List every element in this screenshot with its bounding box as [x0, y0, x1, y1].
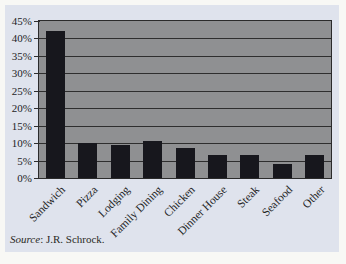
gridline: [39, 126, 331, 127]
y-tick-mark: [34, 21, 40, 22]
y-tick-mark: [34, 143, 40, 144]
y-tick-mark: [34, 91, 40, 92]
plot-area: [38, 20, 332, 179]
y-tick-mark: [34, 108, 40, 109]
bar-sandwich: [46, 31, 65, 178]
x-tick-label: Sandwich: [27, 184, 67, 224]
y-tick-label: 10%: [12, 138, 32, 149]
bar-other: [305, 155, 324, 178]
y-tick-label: 5%: [17, 155, 32, 166]
y-tick-label: 35%: [12, 50, 32, 61]
x-tick-label: Steak: [236, 184, 262, 210]
chart-panel: 0%5%10%15%20%25%30%35%40%45% SandwichPiz…: [5, 5, 339, 252]
y-tick-label: 20%: [12, 103, 32, 114]
source-note: Source: J.R. Schrock.: [10, 233, 105, 245]
source-text: : J.R. Schrock.: [40, 233, 104, 245]
y-tick-label: 25%: [12, 85, 32, 96]
y-tick-mark: [34, 161, 40, 162]
y-tick-label: 30%: [12, 68, 32, 79]
y-tick-mark: [34, 73, 40, 74]
bar-chicken: [176, 148, 195, 178]
gridline: [39, 91, 331, 92]
y-tick-mark: [34, 126, 40, 127]
gridline: [39, 73, 331, 74]
bar-steak: [240, 155, 259, 178]
y-tick-mark: [34, 56, 40, 57]
bar-seafood: [273, 164, 292, 178]
y-tick-label: 0%: [17, 173, 32, 184]
y-tick-mark: [34, 38, 40, 39]
bar-pizza: [78, 143, 97, 178]
figure: 0%5%10%15%20%25%30%35%40%45% SandwichPiz…: [0, 0, 346, 264]
y-axis-labels: 0%5%10%15%20%25%30%35%40%45%: [5, 21, 37, 179]
x-tick-label: Seafood: [260, 184, 295, 219]
y-tick-mark: [34, 178, 40, 179]
y-tick-label: 15%: [12, 120, 32, 131]
y-tick-label: 45%: [12, 16, 32, 27]
y-tick-label: 40%: [12, 33, 32, 44]
gridline: [39, 56, 331, 57]
bar-lodging: [111, 145, 130, 178]
gridline: [39, 108, 331, 109]
source-label: Source: [10, 233, 40, 245]
x-tick-label: Other: [300, 184, 327, 211]
bar-family-dining: [143, 141, 162, 178]
bar-dinner-house: [208, 155, 227, 178]
x-tick-label: Pizza: [74, 184, 100, 210]
gridline: [39, 38, 331, 39]
